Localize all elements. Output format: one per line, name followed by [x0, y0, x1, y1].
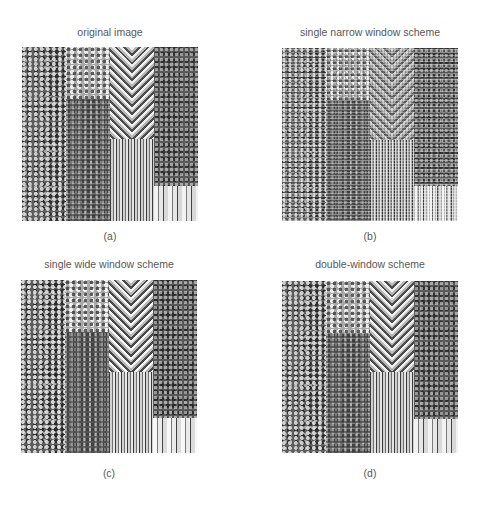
panel-a-title: original image: [22, 26, 198, 38]
panel-b-label: (b): [282, 230, 458, 242]
panel-c-image: [21, 280, 197, 453]
panel-d-title: double-window scheme: [282, 258, 458, 270]
panel-b-image: [282, 48, 458, 221]
panel-c-label: (c): [21, 467, 197, 479]
panel-a-image: [22, 47, 198, 221]
panel-d-image: [282, 281, 458, 453]
panel-c-title: single wide window scheme: [21, 258, 197, 270]
panel-a-label: (a): [22, 230, 198, 242]
panel-d-label: (d): [282, 467, 458, 479]
panel-b-title: single narrow window scheme: [282, 26, 458, 38]
